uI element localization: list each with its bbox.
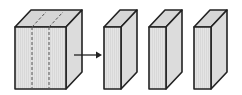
- block-slicing-diagram: [0, 0, 242, 95]
- slab-front-face: [104, 27, 121, 89]
- block-front-face: [15, 27, 66, 89]
- slab-3: [194, 10, 227, 89]
- slab-2: [149, 10, 182, 89]
- slab-1: [104, 10, 137, 89]
- slab-front-face: [194, 27, 211, 89]
- slab-front-face: [149, 27, 166, 89]
